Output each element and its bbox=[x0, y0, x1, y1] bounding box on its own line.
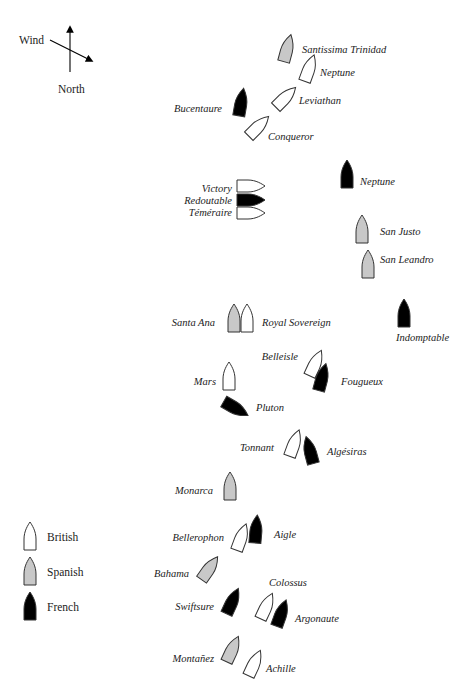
british-ship-icon bbox=[237, 180, 265, 192]
trafalgar-diagram: Wind North Santissima TrinidadNeptuneLev… bbox=[0, 0, 454, 692]
ship-label: San Justo bbox=[380, 226, 421, 237]
wind-label: Wind bbox=[19, 34, 44, 46]
spanish-ship-icon bbox=[24, 557, 36, 585]
ship-temeraire-british: Téméraire bbox=[189, 207, 265, 219]
spanish-ship-icon bbox=[197, 553, 223, 583]
spanish-ship-icon bbox=[278, 33, 297, 63]
ship-label: Redoutable bbox=[183, 195, 232, 206]
ship-santa-ana-spanish: Santa Ana bbox=[172, 304, 240, 332]
french-ship-icon bbox=[300, 435, 319, 465]
ship-label: Santa Ana bbox=[172, 317, 215, 328]
british-ship-icon bbox=[231, 522, 252, 552]
ship-algesiras-french: Algésiras bbox=[300, 435, 366, 465]
british-ship-icon bbox=[243, 648, 266, 678]
british-ship-icon bbox=[272, 83, 300, 111]
ship-argonaute-french: Argonaute bbox=[271, 598, 339, 628]
french-ship-icon bbox=[221, 396, 251, 420]
ship-label: Victory bbox=[202, 183, 232, 194]
ship-label: Téméraire bbox=[189, 207, 233, 218]
ship-label: Mars bbox=[193, 376, 216, 387]
ship-aigle-french: Aigle bbox=[249, 515, 297, 544]
british-ship-icon bbox=[24, 522, 36, 550]
ship-bahama-spanish: Bahama bbox=[154, 553, 223, 583]
french-ship-icon bbox=[398, 299, 410, 327]
british-ship-icon bbox=[284, 428, 305, 458]
ship-achille-british: Achille bbox=[243, 648, 296, 678]
ships-layer: Santissima TrinidadNeptuneLeviathanBucen… bbox=[154, 33, 449, 678]
ship-label: San Leandro bbox=[380, 254, 434, 265]
ship-pluton-french: Pluton bbox=[221, 396, 284, 420]
compass: Wind North bbox=[19, 29, 90, 95]
british-ship-icon bbox=[223, 362, 235, 390]
ship-label: Fougueux bbox=[340, 376, 383, 387]
ship-conqueror-british: Conqueror bbox=[245, 112, 315, 142]
ship-leviathan-british: Leviathan bbox=[272, 83, 341, 111]
french-ship-icon bbox=[237, 194, 265, 206]
spanish-ship-icon bbox=[362, 250, 374, 278]
ship-label: Royal Sovereign bbox=[261, 317, 331, 328]
ship-indomptable-french: Indomptable bbox=[395, 299, 449, 343]
ship-tonnant-british: Tonnant bbox=[240, 428, 305, 458]
ship-neptune-french: Neptune bbox=[341, 160, 395, 188]
ship-label: Argonaute bbox=[294, 613, 339, 624]
spanish-ship-icon bbox=[221, 634, 244, 664]
ship-fougueux-french: Fougueux bbox=[313, 362, 383, 392]
ship-bellerophon-british: Bellerophon bbox=[172, 522, 251, 552]
ship-santissima-trinidad-spanish: Santissima Trinidad bbox=[278, 33, 387, 63]
french-ship-icon bbox=[249, 515, 263, 544]
spanish-ship-icon bbox=[356, 215, 368, 243]
spanish-ship-icon bbox=[228, 304, 240, 332]
ship-label: Tonnant bbox=[240, 442, 275, 453]
legend-label: French bbox=[47, 601, 79, 613]
ship-label: Algésiras bbox=[326, 446, 367, 457]
ship-label: Montañez bbox=[172, 653, 214, 664]
ship-montanez-spanish: Montañez bbox=[172, 634, 244, 664]
ship-label: Indomptable bbox=[395, 332, 449, 343]
british-ship-icon bbox=[237, 207, 265, 219]
ship-label: Bellerophon bbox=[172, 532, 224, 543]
ship-label: Neptune bbox=[319, 67, 355, 78]
french-ship-icon bbox=[233, 87, 250, 117]
legend: BritishSpanishFrench bbox=[24, 522, 84, 620]
ship-neptune-british: Neptune bbox=[299, 53, 355, 83]
ship-label: Pluton bbox=[255, 402, 284, 413]
ship-mars-british: Mars bbox=[193, 362, 235, 390]
ship-bucentaure-french: Bucentaure bbox=[174, 87, 250, 117]
legend-item-british: British bbox=[24, 522, 79, 550]
ship-label: Bahama bbox=[154, 568, 189, 579]
legend-item-spanish: Spanish bbox=[24, 557, 84, 585]
ship-label: Monarca bbox=[174, 485, 213, 496]
ship-royal-sovereign-british: Royal Sovereign bbox=[241, 304, 331, 332]
ship-san-leandro-spanish: San Leandro bbox=[362, 250, 434, 278]
ship-label: Leviathan bbox=[298, 95, 341, 106]
ship-label: Conqueror bbox=[268, 131, 315, 142]
british-ship-icon bbox=[299, 53, 320, 83]
north-label: North bbox=[58, 83, 85, 95]
spanish-ship-icon bbox=[224, 472, 236, 500]
ship-redoutable-french: Redoutable bbox=[183, 194, 265, 206]
ship-label: Neptune bbox=[359, 176, 395, 187]
ship-label: Swiftsure bbox=[175, 601, 214, 612]
french-ship-icon bbox=[271, 598, 292, 628]
ship-swiftsure-french: Swiftsure bbox=[175, 586, 243, 616]
ship-label: Belleisle bbox=[262, 351, 298, 362]
legend-label: British bbox=[47, 531, 79, 543]
british-ship-icon bbox=[241, 304, 253, 332]
ship-san-justo-spanish: San Justo bbox=[356, 215, 421, 243]
legend-item-french: French bbox=[24, 592, 79, 620]
ship-monarca-spanish: Monarca bbox=[174, 472, 236, 500]
ship-label: Colossus bbox=[269, 577, 307, 588]
french-ship-icon bbox=[221, 586, 244, 616]
french-ship-icon bbox=[341, 160, 353, 188]
french-ship-icon bbox=[24, 592, 36, 620]
ship-label: Aigle bbox=[273, 529, 296, 540]
ship-victory-british: Victory bbox=[202, 180, 265, 194]
ship-label: Santissima Trinidad bbox=[302, 44, 387, 55]
ship-label: Bucentaure bbox=[174, 103, 222, 114]
ship-label: Achille bbox=[265, 663, 296, 674]
legend-label: Spanish bbox=[47, 566, 84, 579]
